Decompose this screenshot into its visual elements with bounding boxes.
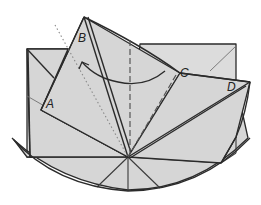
label-c: C (180, 66, 189, 80)
label-a: A (45, 97, 54, 111)
label-d: D (227, 80, 236, 94)
origami-diagram: A B C D (0, 0, 261, 205)
label-b: B (78, 31, 86, 45)
